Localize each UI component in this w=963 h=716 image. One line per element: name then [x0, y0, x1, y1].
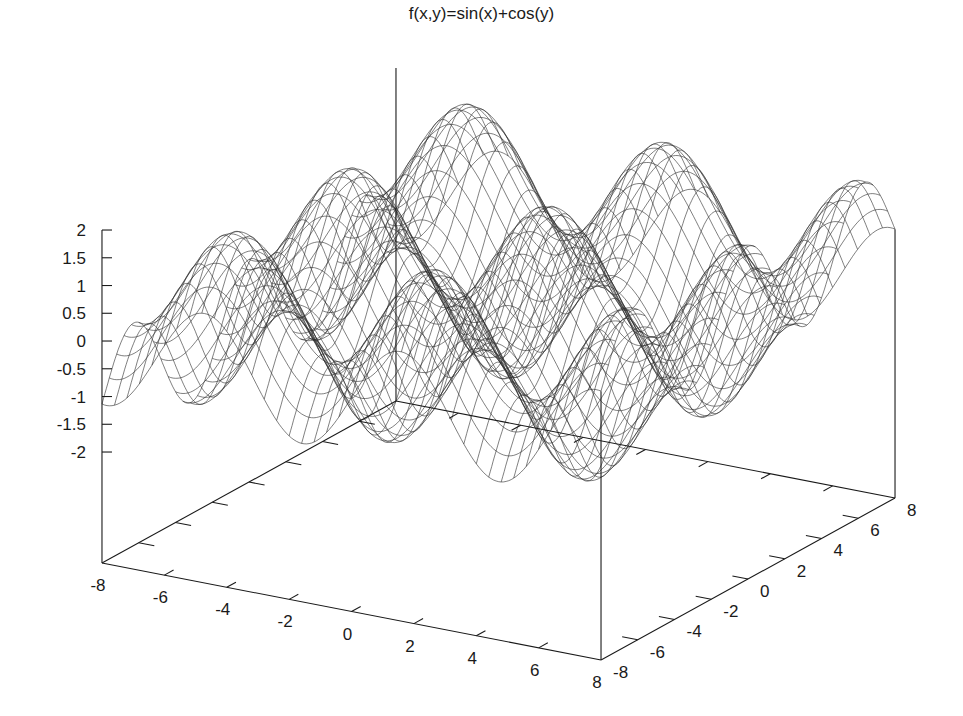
surface-mesh [102, 104, 895, 482]
x-tick-label: -8 [90, 576, 105, 595]
tick-mark [289, 594, 298, 599]
tick-mark [761, 474, 770, 479]
surface-plot: -2-1.5-1-0.500.511.52-8-6-4-202468-8-6-4… [0, 0, 963, 716]
mesh-line-x [539, 240, 833, 449]
tick-mark [732, 576, 748, 579]
x-tick-label: -2 [278, 612, 293, 631]
tick-mark [352, 606, 361, 611]
tick-mark [414, 619, 423, 624]
tick-mark [286, 462, 302, 465]
z-tick-label: 2 [77, 221, 86, 240]
mesh-line-x [127, 189, 421, 398]
tick-mark [622, 637, 638, 640]
tick-mark [476, 631, 485, 636]
x-tick-label: 4 [468, 649, 477, 668]
y-tick-label: 0 [760, 582, 769, 601]
tick-mark [512, 425, 521, 430]
tick-mark [249, 482, 265, 485]
x-tick-label: 8 [592, 673, 601, 692]
z-tick-label: 0 [77, 332, 86, 351]
z-tick-label: 1.5 [62, 249, 86, 268]
mesh-line-x [202, 104, 496, 313]
tick-mark [823, 486, 832, 491]
y-tick-label: -2 [723, 602, 738, 621]
tick-mark [164, 570, 173, 575]
y-tick-label: -4 [687, 622, 702, 641]
y-tick-label: 6 [870, 521, 879, 540]
axis-box [102, 68, 895, 660]
z-tick-label: -2 [71, 443, 86, 462]
tick-mark [139, 543, 155, 546]
z-tick-label: 0.5 [62, 304, 86, 323]
tick-mark [227, 582, 236, 587]
tick-mark [843, 515, 859, 518]
tick-mark [699, 462, 708, 467]
tick-mark [806, 535, 822, 538]
mesh-line-x [514, 269, 808, 478]
mesh-line-x [377, 154, 671, 363]
x-tick-label: -6 [153, 588, 168, 607]
tick-labels: -2-1.5-1-0.500.511.52-8-6-4-202468-8-6-4… [57, 221, 917, 692]
mesh-line-x [302, 234, 596, 443]
mesh-line-x [252, 166, 546, 375]
mesh-line-x [501, 273, 795, 482]
y-tick-label: 4 [834, 541, 843, 560]
y-tick-label: 8 [907, 501, 916, 520]
y-tick-label: -6 [650, 643, 665, 662]
tick-mark [659, 616, 675, 619]
z-tick-label: -1 [71, 388, 86, 407]
y-tick-label: 2 [797, 562, 806, 581]
z-tick-label: 1 [77, 277, 86, 296]
x-tick-label: 0 [343, 625, 352, 644]
mesh-line-x [115, 196, 409, 405]
y-tick-label: -8 [613, 663, 628, 682]
tick-mark [769, 556, 785, 559]
tick-mark [696, 596, 712, 599]
tick-mark [636, 450, 645, 455]
z-tick-label: -0.5 [57, 360, 86, 379]
tick-mark [212, 502, 228, 505]
tick-mark [322, 442, 338, 445]
tick-mark [449, 413, 458, 418]
x-tick-label: 2 [405, 637, 414, 656]
x-tick-label: 6 [530, 661, 539, 680]
tick-mark [175, 523, 191, 526]
x-tick-label: -4 [215, 600, 230, 619]
tick-mark [539, 643, 548, 648]
z-tick-label: -1.5 [57, 415, 86, 434]
